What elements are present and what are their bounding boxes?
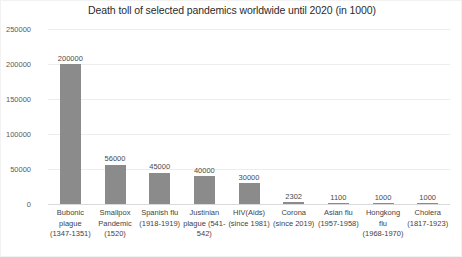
y-axis-tick-label: 100000 (0, 130, 31, 139)
x-axis-category-label: SmallpoxPandemic(1520) (93, 208, 138, 240)
category-label-line: 542) (183, 229, 226, 240)
y-axis-tick-label: 0 (0, 200, 31, 209)
bar-value-label: 30000 (227, 173, 272, 182)
category-label-line: HIV(Aids) (228, 208, 271, 219)
bar-value-label: 1000 (405, 193, 450, 202)
category-label-line: Spanish flu (138, 208, 181, 219)
x-axis-category-label: Bubonicplague(1347-1351) (48, 208, 93, 240)
bar-value-label: 2302 (271, 192, 316, 201)
x-axis-category-label: Hongkong flu(1968-1970) (361, 208, 406, 240)
x-axis-category-labels: Bubonicplague(1347-1351)SmallpoxPandemic… (48, 208, 450, 240)
bar[interactable] (149, 173, 170, 205)
x-axis-category-label: HIV(Aids)(since 1981) (227, 208, 272, 240)
bar[interactable] (239, 183, 260, 204)
bar[interactable] (194, 176, 215, 204)
bar-slot[interactable]: 2302 (271, 29, 316, 204)
y-axis-tick-label: 50000 (0, 165, 31, 174)
bar-slot[interactable]: 30000 (227, 29, 272, 204)
bar-value-label: 56000 (93, 154, 138, 163)
category-label-line: (1347-1351) (49, 229, 92, 240)
category-label-line: (1817-1923) (406, 219, 449, 230)
category-label-line: (1520) (94, 229, 137, 240)
category-label-line: (1968-1970) (362, 229, 405, 240)
category-label-line: Cholera (406, 208, 449, 219)
bar-slot[interactable]: 56000 (93, 29, 138, 204)
category-label-line: Pandemic (94, 219, 137, 230)
y-axis-tick-label: 200000 (0, 60, 31, 69)
plot-area: 050000100000150000200000250000 200000560… (48, 29, 450, 204)
x-axis-category-label: Justinianplague (541-542) (182, 208, 227, 240)
x-axis-category-label: Cholera(1817-1923) (405, 208, 450, 240)
category-label-line: (since 1981) (228, 219, 271, 230)
category-label-line: Smallpox (94, 208, 137, 219)
x-axis-category-label: Asian flu(1957-1958) (316, 208, 361, 240)
bar-value-label: 40000 (182, 166, 227, 175)
x-axis-category-label: Spanish flu(1918-1919) (137, 208, 182, 240)
bar-value-label: 1100 (316, 193, 361, 202)
x-axis-line (48, 204, 450, 205)
category-label-line: plague (49, 219, 92, 230)
category-label-line: Hongkong flu (362, 208, 405, 229)
bar-slot[interactable]: 1100 (316, 29, 361, 204)
category-label-line: Corona (272, 208, 315, 219)
category-label-line: (1918-1919) (138, 219, 181, 230)
bar-slot[interactable]: 45000 (137, 29, 182, 204)
bar-slot[interactable]: 40000 (182, 29, 227, 204)
bar[interactable] (60, 64, 81, 204)
bar-value-label: 45000 (137, 162, 182, 171)
chart-title: Death toll of selected pandemics worldwi… (1, 4, 462, 16)
category-label-line: (since 2019) (272, 219, 315, 230)
bar-slot[interactable]: 200000 (48, 29, 93, 204)
category-label-line: Justinian (183, 208, 226, 219)
bar-series: 2000005600045000400003000023021100100010… (48, 29, 450, 204)
bar-slot[interactable]: 1000 (405, 29, 450, 204)
category-label-line: Bubonic (49, 208, 92, 219)
bar[interactable] (105, 165, 126, 204)
x-axis-category-label: Corona(since 2019) (271, 208, 316, 240)
category-label-line: (1957-1958) (317, 219, 360, 230)
category-label-line: plague (541- (183, 219, 226, 230)
bar-value-label: 200000 (48, 54, 93, 63)
bar-chart: Death toll of selected pandemics worldwi… (0, 0, 462, 257)
y-axis-tick-label: 250000 (0, 25, 31, 34)
bar-slot[interactable]: 1000 (361, 29, 406, 204)
category-label-line: Asian flu (317, 208, 360, 219)
y-axis-tick-label: 150000 (0, 95, 31, 104)
bar-value-label: 1000 (361, 193, 406, 202)
